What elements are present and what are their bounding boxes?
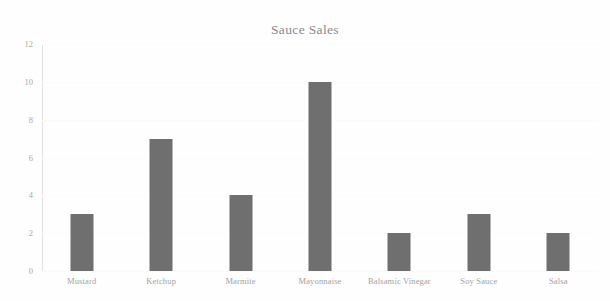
y-tick-label: 8 — [29, 115, 33, 124]
x-tick-label: Balsamic Vinegar — [368, 277, 431, 286]
bar-group[interactable] — [439, 44, 518, 271]
y-tick-label: 2 — [29, 229, 33, 238]
y-tick-label: 0 — [29, 267, 33, 276]
bar[interactable] — [388, 233, 411, 271]
bar[interactable] — [467, 214, 490, 271]
x-tick-label: Soy Sauce — [460, 277, 497, 286]
gridline — [42, 271, 598, 272]
bar[interactable] — [150, 139, 173, 271]
bar[interactable] — [308, 82, 331, 271]
y-tick-label: 10 — [25, 78, 34, 87]
bar-group[interactable] — [201, 44, 280, 271]
chart-title: Sauce Sales — [0, 22, 610, 38]
y-tick-label: 6 — [29, 153, 33, 162]
x-tick-label: Mayonnaise — [298, 277, 341, 286]
bar-group[interactable] — [121, 44, 200, 271]
y-tick-label: 12 — [25, 40, 34, 49]
bar-group[interactable] — [280, 44, 359, 271]
y-tick-label: 4 — [29, 191, 33, 200]
bar[interactable] — [547, 233, 570, 271]
bar[interactable] — [229, 195, 252, 271]
x-tick-label: Ketchup — [146, 277, 176, 286]
bar-group[interactable] — [360, 44, 439, 271]
bar-chart-figure: Sauce Sales 024681012 MustardKetchupMarm… — [0, 0, 610, 301]
bar-group[interactable] — [42, 44, 121, 271]
bars-layer — [42, 44, 598, 271]
x-tick-label: Mustard — [67, 277, 96, 286]
bar-group[interactable] — [519, 44, 598, 271]
bar[interactable] — [70, 214, 93, 271]
x-tick-label: Marmite — [225, 277, 255, 286]
plot-area: 024681012 MustardKetchupMarmiteMayonnais… — [42, 44, 598, 271]
x-tick-label: Salsa — [549, 277, 568, 286]
